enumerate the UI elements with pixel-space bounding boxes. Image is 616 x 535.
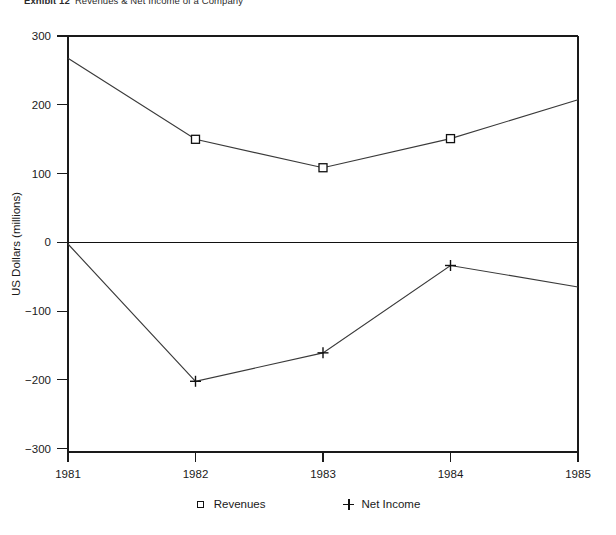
x-axis-ticks <box>68 452 578 462</box>
series-line-revenues <box>68 58 578 168</box>
x-tick-label: 1981 <box>55 468 81 480</box>
data-point-revenues-1984 <box>447 135 455 143</box>
data-point-net-income-1984 <box>445 260 456 271</box>
legend-label-net-income: Net Income <box>361 498 420 510</box>
x-axis-tick-labels: 1981 1982 1983 1984 1985 <box>55 468 591 480</box>
y-tick-label: 100 <box>32 168 51 180</box>
line-chart: 300 200 100 0 −100 −200 −300 US Dollars … <box>0 0 616 535</box>
legend-label-revenues: Revenues <box>214 498 266 510</box>
series-layer <box>68 58 578 387</box>
y-tick-label: 0 <box>45 236 51 248</box>
data-point-net-income-1983 <box>318 347 329 358</box>
y-tick-label: 300 <box>32 30 51 42</box>
y-tick-label: −200 <box>25 374 51 386</box>
data-point-revenues-1983 <box>319 164 327 172</box>
x-tick-label: 1983 <box>310 468 336 480</box>
y-tick-label: 200 <box>32 99 51 111</box>
legend-item-revenues: Revenues <box>196 498 266 510</box>
y-tick-label: −100 <box>25 305 51 317</box>
x-tick-label: 1982 <box>183 468 209 480</box>
y-axis-ticks <box>57 36 68 449</box>
chart-legend: Revenues Net Income <box>0 498 616 510</box>
y-tick-label: −300 <box>25 443 51 455</box>
data-point-revenues-1982 <box>192 135 200 143</box>
y-axis-title: US Dollars (millions) <box>10 192 22 296</box>
plus-marker-icon <box>343 499 354 510</box>
series-line-net-income <box>68 244 578 381</box>
y-axis-tick-labels: 300 200 100 0 −100 −200 −300 <box>25 30 51 455</box>
legend-item-net-income: Net Income <box>343 498 420 510</box>
x-tick-label: 1985 <box>565 468 591 480</box>
square-marker-icon <box>196 499 207 510</box>
plot-frame <box>68 36 578 452</box>
x-tick-label: 1984 <box>438 468 464 480</box>
chart-canvas: 300 200 100 0 −100 −200 −300 US Dollars … <box>0 0 616 535</box>
